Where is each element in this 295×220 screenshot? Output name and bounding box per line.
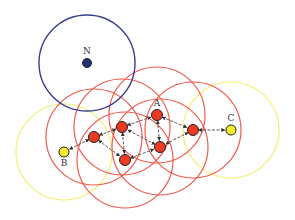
node-a [152, 110, 163, 121]
label-b: B [61, 158, 68, 168]
label-a: A [153, 98, 161, 108]
nodes [59, 59, 236, 166]
node-r1 [89, 132, 100, 143]
node-r5 [155, 142, 166, 153]
label-c: C [228, 113, 235, 123]
node-r4 [188, 125, 199, 136]
node-r6 [120, 155, 131, 166]
link-r1-r6 [98, 140, 119, 156]
node-n [83, 59, 92, 68]
link-a-r5 [158, 120, 160, 140]
node-c [226, 125, 236, 135]
transmission-ranges [16, 15, 279, 208]
node-r2 [117, 122, 128, 133]
network-diagram: NBCA [0, 0, 295, 220]
node-b [59, 147, 69, 157]
label-n: N [83, 46, 91, 56]
